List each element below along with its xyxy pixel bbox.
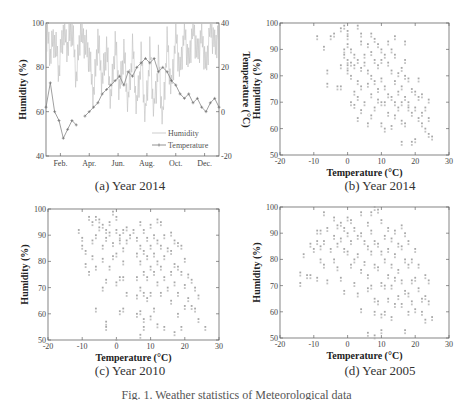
x-tick-label: Dec. <box>197 159 212 168</box>
legend: HumidityTemperature <box>152 129 209 150</box>
legend-humidity: Humidity <box>168 129 199 138</box>
scatter-chart-2005: -20-1001020305060708090100Temperature (°… <box>240 195 473 385</box>
y-tick-label: 40 <box>36 152 44 161</box>
panel-a: 406080100-2002040Feb.Apr.Jun.Aug.Oct.Dec… <box>0 0 240 200</box>
y-tick-label: 90 <box>270 229 278 238</box>
y2-tick-label: 40 <box>221 19 229 28</box>
panel-b: -20-1001020305060708090100Temperature (°… <box>240 0 473 200</box>
scatter-points <box>299 206 433 339</box>
x-tick-label: 30 <box>215 342 223 351</box>
figure-caption: Fig. 1. Weather statistics of Meteorolog… <box>0 388 473 400</box>
y-tick-label: 100 <box>32 19 44 28</box>
scatter-chart-2010: -20-1001020305060708090100Temperature (°… <box>0 195 240 385</box>
x-tick-label: -10 <box>308 157 319 166</box>
temperature-line <box>45 57 221 140</box>
y-tick-label: 60 <box>270 308 278 317</box>
x-tick-label: Aug. <box>139 159 155 168</box>
x-tick-label: Feb. <box>53 159 67 168</box>
scatter-points <box>316 25 433 146</box>
x-tick-label: 20 <box>411 157 419 166</box>
y-tick-label: 60 <box>38 310 46 319</box>
y-tick-label: 80 <box>38 257 46 266</box>
y-tick-label: 50 <box>270 334 278 343</box>
line-chart-humidity-temperature-2014: 406080100-2002040Feb.Apr.Jun.Aug.Oct.Dec… <box>0 0 240 200</box>
y-tick-label: 80 <box>270 255 278 264</box>
x-tick-label: -10 <box>77 342 88 351</box>
panel-d: -20-1001020305060708090100Temperature (°… <box>240 195 473 385</box>
y-tick-label: 100 <box>266 19 278 28</box>
y-tick-label: 100 <box>34 205 46 214</box>
x-tick-label: 20 <box>411 340 419 349</box>
x-tick-label: -10 <box>308 340 319 349</box>
y2-tick-label: 20 <box>221 63 229 72</box>
y-tick-label: 90 <box>38 231 46 240</box>
y-tick-label: 100 <box>266 203 278 212</box>
plot-frame <box>280 207 449 338</box>
y2-tick-label: -20 <box>221 152 232 161</box>
y-axis-label: Humidity (%) <box>251 59 263 119</box>
panel-c: -20-1001020305060708090100Temperature (°… <box>0 195 240 385</box>
x-tick-label: 30 <box>445 157 453 166</box>
x-tick-label: Apr. <box>82 159 96 168</box>
y2-tick-label: 0 <box>221 108 225 117</box>
y-axis-label: Humidity (%) <box>17 59 29 119</box>
y-tick-label: 50 <box>38 336 46 345</box>
caption-d: (d) Year 2005 <box>310 363 450 379</box>
y-tick-label: 50 <box>270 151 278 160</box>
x-tick-label: 10 <box>377 157 385 166</box>
humidity-line <box>46 23 218 124</box>
x-tick-label: 30 <box>445 340 453 349</box>
y-tick-label: 70 <box>270 282 278 291</box>
y-tick-label: 70 <box>38 284 46 293</box>
caption-a: (a) Year 2014 <box>50 178 210 194</box>
x-tick-label: 10 <box>147 342 155 351</box>
y-tick-label: 60 <box>36 108 44 117</box>
x-tick-label: 0 <box>346 157 350 166</box>
scatter-chart-2014: -20-1001020305060708090100Temperature (°… <box>240 0 473 200</box>
x-tick-label: Oct. <box>169 159 183 168</box>
caption-c: (c) Year 2010 <box>60 363 200 379</box>
x-tick-label: 20 <box>181 342 189 351</box>
plot-frame <box>48 209 219 340</box>
x-tick-label: 10 <box>377 340 385 349</box>
x-axis-label: Temperature (°C) <box>327 350 403 362</box>
y-axis-label: Humidity (%) <box>251 242 263 302</box>
caption-b: (b) Year 2014 <box>310 178 450 194</box>
y-tick-label: 80 <box>36 63 44 72</box>
y-tick-label: 70 <box>270 98 278 107</box>
y-axis-label: Humidity (%) <box>19 244 31 304</box>
x-tick-label: Jun. <box>112 159 125 168</box>
x-tick-label: 0 <box>346 340 350 349</box>
y-tick-label: 60 <box>270 125 278 134</box>
y-tick-label: 90 <box>270 45 278 54</box>
y-tick-label: 80 <box>270 72 278 81</box>
legend-temperature: Temperature <box>168 141 209 150</box>
plot-frame <box>280 23 449 155</box>
scatter-points <box>78 211 206 344</box>
